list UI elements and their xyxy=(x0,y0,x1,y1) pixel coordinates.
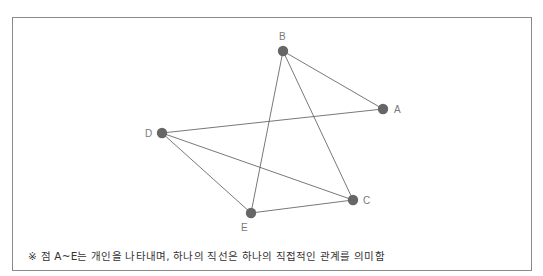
node-label-A: A xyxy=(394,104,401,115)
node-B xyxy=(278,46,288,56)
node-C xyxy=(348,195,358,205)
edge-B-C xyxy=(283,51,353,200)
edge-B-E xyxy=(251,51,283,213)
node-label-B: B xyxy=(279,31,286,42)
edge-B-A xyxy=(283,51,383,109)
network-diagram: ABCDE xyxy=(0,0,543,276)
edge-D-A xyxy=(162,109,383,133)
edge-E-C xyxy=(251,200,353,213)
node-label-C: C xyxy=(363,195,370,206)
node-label-E: E xyxy=(241,222,248,233)
node-A xyxy=(378,104,388,114)
diagram-note: ※ 점 A~E는 개인을 나타내며, 하나의 직선은 하나의 직접적인 관계를 … xyxy=(28,248,385,263)
node-D xyxy=(157,128,167,138)
edge-D-E xyxy=(162,133,251,213)
node-label-D: D xyxy=(145,128,152,139)
edge-D-C xyxy=(162,133,353,200)
node-E xyxy=(246,208,256,218)
